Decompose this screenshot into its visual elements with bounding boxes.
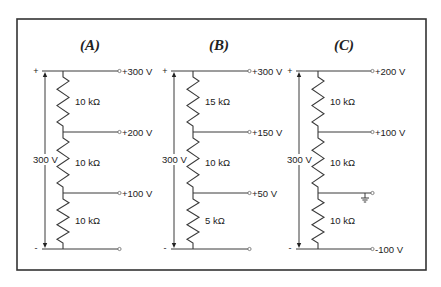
- tap-voltage-label: +300 V: [122, 66, 153, 77]
- terminal-icon: [248, 247, 251, 250]
- circuit-title: (C): [334, 37, 354, 54]
- terminal-icon: [248, 130, 251, 133]
- resistor-1-icon: [57, 71, 69, 132]
- terminal-icon: [118, 191, 121, 194]
- source-voltage-label: 300 V: [33, 154, 58, 165]
- terminal-icon: [371, 69, 374, 72]
- arrowhead-up-icon: [43, 72, 47, 77]
- resistor-value-label: 5 kΩ: [205, 215, 225, 226]
- tap-voltage-label: +50 V: [252, 188, 278, 199]
- source-voltage-label: 300 V: [162, 154, 187, 165]
- source-voltage-label: 300 V: [287, 154, 312, 165]
- terminal-icon: [248, 69, 251, 72]
- resistor-2-icon: [187, 132, 199, 193]
- terminal-icon: [248, 191, 251, 194]
- resistor-value-label: 10 kΩ: [75, 215, 100, 226]
- minus-sign: -: [289, 243, 292, 253]
- ground-icon: [361, 193, 369, 202]
- terminal-icon: [118, 247, 121, 250]
- terminal-icon: [118, 130, 121, 133]
- voltage-divider-diagram: (A)+-300 V10 kΩ10 kΩ10 kΩ+300 V+200 V+10…: [0, 0, 441, 287]
- resistor-value-label: 10 kΩ: [330, 215, 355, 226]
- plus-sign: +: [33, 66, 38, 76]
- circuit-c: (C)+-300 V10 kΩ10 kΩ10 kΩ+200 V+100 V-10…: [287, 37, 406, 255]
- resistor-value-label: 10 kΩ: [330, 96, 355, 107]
- resistor-3-icon: [187, 193, 199, 249]
- figure-frame: [17, 19, 426, 270]
- tap-voltage-label: +150 V: [252, 127, 283, 138]
- circuit-title: (B): [209, 37, 229, 54]
- resistor-3-icon: [57, 193, 69, 249]
- tap-voltage-label: +200 V: [375, 66, 406, 77]
- arrowhead-down-icon: [172, 243, 176, 248]
- terminal-icon: [371, 247, 374, 250]
- resistor-value-label: 10 kΩ: [75, 96, 100, 107]
- resistor-3-icon: [312, 193, 324, 249]
- arrowhead-up-icon: [172, 72, 176, 77]
- terminal-icon: [118, 69, 121, 72]
- tap-voltage-label: +100 V: [375, 127, 406, 138]
- tap-voltage-label: +100 V: [122, 188, 153, 199]
- arrowhead-down-icon: [297, 243, 301, 248]
- minus-sign: -: [164, 243, 167, 253]
- resistor-1-icon: [312, 71, 324, 132]
- arrowhead-down-icon: [43, 243, 47, 248]
- resistor-2-icon: [57, 132, 69, 193]
- circuit-b: (B)+-300 V15 kΩ10 kΩ5 kΩ+300 V+150 V+50 …: [162, 37, 283, 253]
- minus-sign: -: [35, 243, 38, 253]
- circuit-a: (A)+-300 V10 kΩ10 kΩ10 kΩ+300 V+200 V+10…: [33, 37, 153, 253]
- resistor-1-icon: [187, 71, 199, 132]
- resistor-value-label: 10 kΩ: [205, 157, 230, 168]
- arrowhead-up-icon: [297, 72, 301, 77]
- resistor-value-label: 15 kΩ: [205, 96, 230, 107]
- tap-voltage-label: -100 V: [375, 244, 404, 255]
- tap-voltage-label: +300 V: [252, 66, 283, 77]
- terminal-icon: [371, 191, 374, 194]
- resistor-2-icon: [312, 132, 324, 193]
- plus-sign: +: [162, 66, 167, 76]
- circuit-title: (A): [80, 37, 100, 54]
- tap-voltage-label: +200 V: [122, 127, 153, 138]
- terminal-icon: [371, 130, 374, 133]
- circuits-group: (A)+-300 V10 kΩ10 kΩ10 kΩ+300 V+200 V+10…: [33, 37, 406, 255]
- resistor-value-label: 10 kΩ: [75, 157, 100, 168]
- resistor-value-label: 10 kΩ: [330, 157, 355, 168]
- plus-sign: +: [287, 66, 292, 76]
